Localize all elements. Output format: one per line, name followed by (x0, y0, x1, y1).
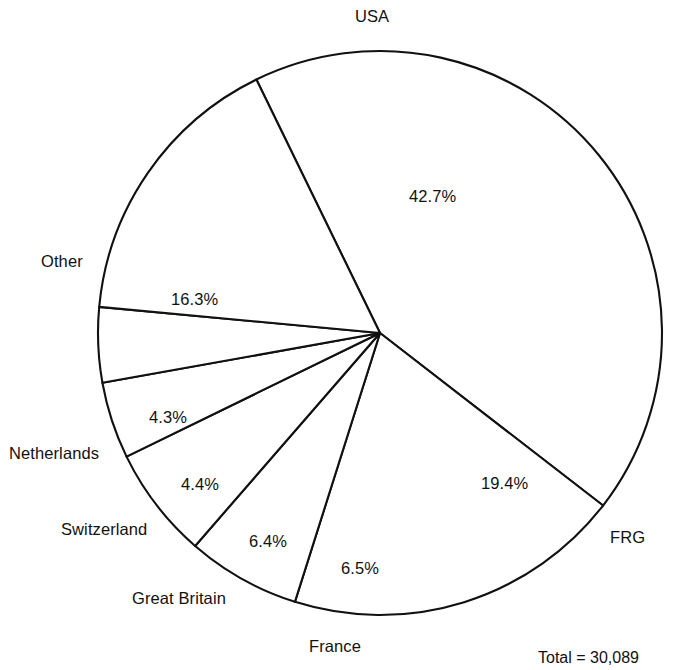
pie-slices-group (98, 51, 662, 615)
slice-percent-great-britain: 6.4% (249, 533, 287, 550)
slice-percent-netherlands: 4.3% (149, 409, 187, 426)
slice-percent-france: 6.5% (341, 560, 379, 577)
pie-chart: 42.7%USA19.4%FRG6.5%France6.4%Great Brit… (0, 0, 676, 670)
total-label: Total = 30,089 (538, 650, 639, 666)
slice-percent-frg: 19.4% (481, 475, 528, 492)
slice-percent-other: 16.3% (171, 291, 218, 308)
slice-percent-switzerland: 4.4% (181, 476, 219, 493)
slice-label-switzerland: Switzerland (61, 521, 147, 538)
slice-label-usa: USA (355, 8, 389, 25)
pie-svg (0, 0, 676, 670)
slice-label-other: Other (41, 253, 83, 270)
slice-percent-usa: 42.7% (409, 188, 456, 205)
slice-label-france: France (309, 638, 361, 655)
slice-label-netherlands: Netherlands (9, 445, 99, 462)
slice-label-great-britain: Great Britain (132, 590, 226, 607)
slice-label-frg: FRG (610, 529, 645, 546)
